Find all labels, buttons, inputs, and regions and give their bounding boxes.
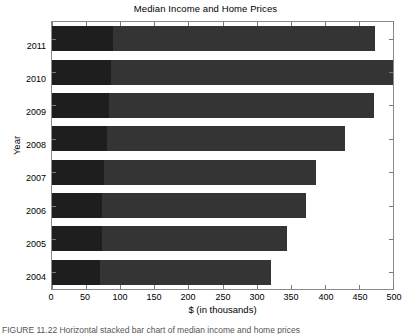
- y-tick-label: 2009: [0, 107, 46, 117]
- bar-segment: [107, 126, 346, 151]
- bar-row: [52, 193, 393, 218]
- axis-tick-mark: [389, 39, 393, 40]
- bar-segment: [100, 260, 271, 285]
- axis-tick-mark: [389, 72, 393, 73]
- axis-tick-mark: [52, 272, 56, 273]
- axis-tick-mark: [359, 22, 360, 26]
- axis-tick-mark: [257, 22, 258, 26]
- axis-tick-mark: [393, 22, 394, 26]
- axis-tick-mark: [52, 72, 56, 73]
- axis-tick-mark: [188, 285, 189, 289]
- axis-tick-mark: [389, 239, 393, 240]
- bar-segment: [52, 226, 102, 251]
- x-tick-label: 300: [249, 292, 264, 302]
- bar-segment: [52, 160, 104, 185]
- bar-segment: [104, 160, 316, 185]
- axis-tick-mark: [154, 22, 155, 26]
- axis-tick-mark: [389, 206, 393, 207]
- axis-tick-mark: [291, 22, 292, 26]
- bar-row: [52, 126, 393, 151]
- axis-tick-mark: [393, 285, 394, 289]
- axis-tick-mark: [389, 172, 393, 173]
- x-tick-label: 100: [112, 292, 127, 302]
- bar-segment: [109, 93, 374, 118]
- bar-row: [52, 93, 393, 118]
- bar-segment: [52, 193, 102, 218]
- y-tick-label: 2010: [0, 74, 46, 84]
- y-tick-label: 2005: [0, 239, 46, 249]
- axis-tick-mark: [359, 285, 360, 289]
- x-tick-label: 250: [215, 292, 230, 302]
- axis-tick-mark: [389, 272, 393, 273]
- bar-row: [52, 260, 393, 285]
- x-tick-label: 0: [48, 292, 53, 302]
- figure-container: Median Income and Home Prices $ (in thou…: [0, 0, 411, 334]
- bar-segment: [52, 126, 107, 151]
- bar-segment: [52, 260, 100, 285]
- axis-tick-mark: [52, 172, 56, 173]
- x-tick-label: 50: [80, 292, 90, 302]
- axis-tick-mark: [188, 22, 189, 26]
- axis-tick-mark: [291, 285, 292, 289]
- y-tick-label: 2008: [0, 140, 46, 150]
- y-tick-label: 2007: [0, 173, 46, 183]
- page-caption: FIGURE 11.22 Horizontal stacked bar char…: [2, 326, 407, 334]
- axis-tick-mark: [325, 285, 326, 289]
- axis-tick-mark: [86, 285, 87, 289]
- axis-tick-mark: [389, 105, 393, 106]
- axis-tick-mark: [120, 22, 121, 26]
- axis-tick-mark: [52, 206, 56, 207]
- x-tick-label: 500: [386, 292, 401, 302]
- axis-tick-mark: [257, 285, 258, 289]
- bar-segment: [113, 26, 374, 51]
- bar-row: [52, 160, 393, 185]
- axis-tick-mark: [52, 22, 53, 26]
- axis-tick-mark: [223, 22, 224, 26]
- y-tick-label: 2004: [0, 272, 46, 282]
- axis-tick-mark: [389, 139, 393, 140]
- axis-tick-mark: [223, 285, 224, 289]
- y-tick-label: 2006: [0, 206, 46, 216]
- axis-tick-mark: [52, 39, 56, 40]
- axis-tick-mark: [86, 22, 87, 26]
- bar-segment: [102, 193, 306, 218]
- x-tick-label: 200: [180, 292, 195, 302]
- axis-tick-mark: [52, 239, 56, 240]
- bar-segment: [111, 60, 393, 85]
- axis-tick-mark: [120, 285, 121, 289]
- axis-tick-mark: [325, 22, 326, 26]
- x-tick-label: 400: [318, 292, 333, 302]
- axis-tick-mark: [154, 285, 155, 289]
- x-tick-label: 350: [283, 292, 298, 302]
- axis-tick-mark: [52, 105, 56, 106]
- bar-row: [52, 60, 393, 85]
- axis-tick-mark: [52, 285, 53, 289]
- axis-tick-mark: [52, 139, 56, 140]
- y-tick-label: 2011: [0, 41, 46, 51]
- bar-segment: [102, 226, 286, 251]
- bar-row: [52, 26, 393, 51]
- x-tick-label: 450: [352, 292, 367, 302]
- bar-row: [52, 226, 393, 251]
- x-tick-label: 150: [146, 292, 161, 302]
- bar-segment: [52, 93, 109, 118]
- bar-segment: [52, 60, 111, 85]
- plot-area: [51, 21, 394, 290]
- bars-layer: [52, 22, 393, 289]
- bar-segment: [52, 26, 113, 51]
